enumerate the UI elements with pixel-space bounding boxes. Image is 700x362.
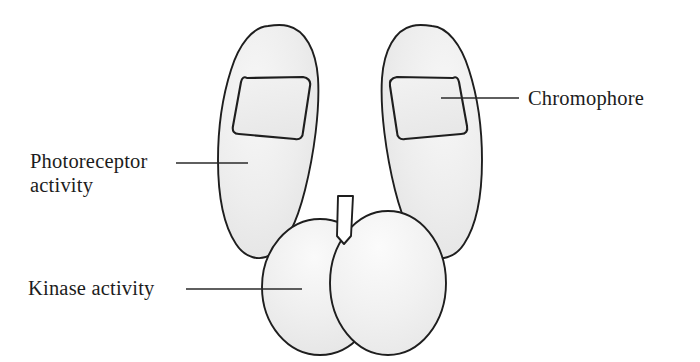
photoreceptor-activity-label-line2: activity: [30, 174, 94, 197]
phytochrome-dimer-figure: Photoreceptor activity Kinase activity C…: [0, 0, 700, 362]
right-chromophore-box: [390, 77, 467, 139]
chromophore-label: Chromophore: [528, 87, 644, 110]
kinase-activity-label-line1: Kinase activity: [28, 277, 155, 300]
dimer-interface-notch: [337, 196, 353, 244]
photoreceptor-activity-label: Photoreceptor activity: [30, 150, 153, 197]
kinase-activity-label: Kinase activity: [28, 277, 155, 300]
photoreceptor-activity-label-line1: Photoreceptor: [30, 150, 148, 173]
chromophore-label-line1: Chromophore: [528, 87, 644, 110]
left-chromophore-box: [233, 77, 310, 139]
diagram-canvas: Photoreceptor activity Kinase activity C…: [0, 0, 700, 362]
